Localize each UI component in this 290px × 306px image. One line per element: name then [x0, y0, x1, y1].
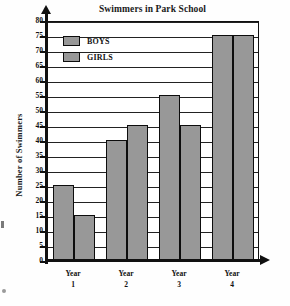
y-axis-tick-label: 25	[21, 181, 43, 190]
legend-item-boys: BOYS	[63, 34, 143, 48]
x-axis-label-year-4: Year4	[209, 268, 255, 290]
y-axis-tick-label: 80	[21, 16, 43, 25]
x-label-line2: 3	[156, 279, 202, 290]
y-axis-tick-label: 10	[21, 226, 43, 235]
y-axis-tick-label: 65	[21, 61, 43, 70]
x-label-line2: 2	[103, 279, 149, 290]
y-axis-tick-label: 50	[21, 106, 43, 115]
legend-label-girls: GIRLS	[87, 53, 113, 62]
bar-girls-year-2	[127, 125, 148, 260]
x-label-line1: Year	[172, 269, 187, 278]
y-axis-tick-label: 0	[21, 256, 43, 265]
bar-boys-year-1	[53, 185, 74, 260]
legend-item-girls: GIRLS	[63, 50, 143, 64]
y-axis-tick-label: 75	[21, 31, 43, 40]
bar-boys-year-3	[159, 95, 180, 260]
chart-legend: BOYS GIRLS	[63, 34, 143, 66]
bar-girls-year-4	[233, 35, 254, 260]
x-label-line1: Year	[66, 269, 81, 278]
x-label-line2: 4	[209, 279, 255, 290]
bar-boys-year-2	[106, 140, 127, 260]
x-label-line2: 1	[50, 279, 96, 290]
x-label-line1: Year	[119, 269, 134, 278]
y-axis-tick-label: 70	[21, 46, 43, 55]
x-axis-label-year-1: Year1	[50, 268, 96, 290]
x-label-line1: Year	[225, 269, 240, 278]
x-axis-arrow-icon	[260, 255, 270, 265]
y-axis-tick-label: 55	[21, 91, 43, 100]
y-axis-tick-label: 45	[21, 121, 43, 130]
bar-girls-year-1	[74, 215, 95, 260]
bar-boys-year-4	[212, 35, 233, 260]
y-axis-tick-label: 5	[21, 241, 43, 250]
x-axis-label-year-3: Year3	[156, 268, 202, 290]
x-axis-label-year-2: Year2	[103, 268, 149, 290]
y-axis-tick-label: 35	[21, 151, 43, 160]
legend-label-boys: BOYS	[87, 37, 110, 46]
y-axis-tick-label: 30	[21, 166, 43, 175]
scan-artifact-bottom	[2, 289, 6, 293]
y-axis-tick-label: 40	[21, 136, 43, 145]
y-axis-tick-label: 60	[21, 76, 43, 85]
chart-title: Swimmers in Park School	[60, 4, 245, 14]
bar-girls-year-3	[180, 125, 201, 260]
y-axis-tick-label: 15	[21, 211, 43, 220]
legend-swatch-girls	[63, 52, 80, 62]
y-axis-line	[45, 12, 48, 264]
legend-swatch-boys	[63, 36, 80, 46]
y-axis-tick-label: 20	[21, 196, 43, 205]
x-axis-line	[45, 259, 262, 262]
scan-artifact-left	[1, 221, 4, 228]
chart-screenshot: Swimmers in Park School Number of Swimme…	[0, 0, 290, 306]
